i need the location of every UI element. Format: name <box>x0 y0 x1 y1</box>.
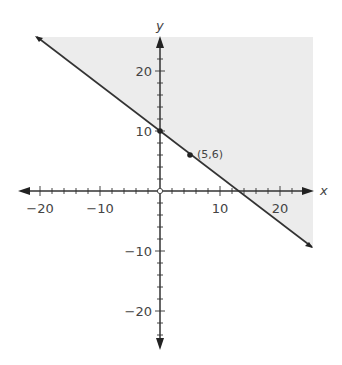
x-tick-label: 20 <box>272 201 289 216</box>
point-label: (5,6) <box>197 148 223 161</box>
x-tick-label: 10 <box>212 201 229 216</box>
y-tick-label: 20 <box>135 64 152 79</box>
x-tick-label: −10 <box>86 201 113 216</box>
x-tick-label: −20 <box>26 201 53 216</box>
x-axis-label: x <box>319 183 328 198</box>
y-tick-label: 10 <box>135 124 152 139</box>
x-axis-left-arrow-icon <box>18 187 30 195</box>
y-tick-label: −10 <box>125 244 152 259</box>
inequality-graph: (5,6) x y −20 −10 10 20 20 10 −10 −20 <box>0 0 342 365</box>
y-axis-label: y <box>155 18 164 33</box>
y-axis-down-arrow-icon <box>156 338 164 350</box>
point-y-intercept <box>157 128 163 134</box>
y-tick-label: −20 <box>125 304 152 319</box>
point-5-6 <box>187 152 193 158</box>
origin-marker <box>157 188 162 193</box>
